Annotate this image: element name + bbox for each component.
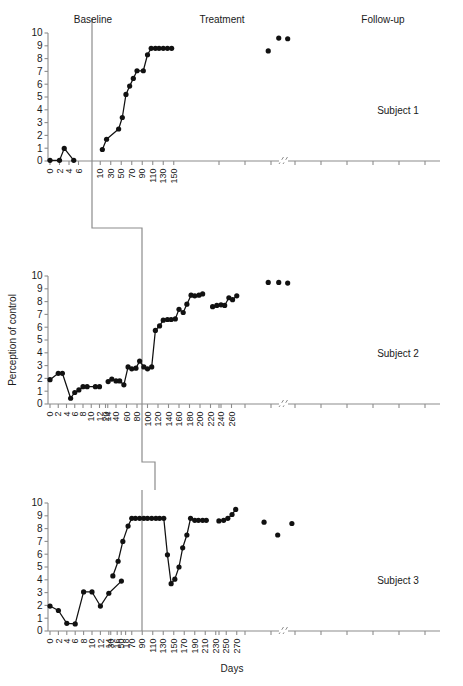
data-point — [181, 310, 186, 315]
data-point — [149, 364, 154, 369]
data-point — [120, 115, 125, 120]
x-tick-label: 180 — [185, 412, 195, 427]
y-tick-label: 4 — [37, 104, 43, 115]
data-point — [141, 68, 146, 73]
data-point — [117, 378, 122, 383]
x-axis-title: Days — [221, 663, 244, 674]
data-point — [47, 158, 52, 163]
y-tick-label: 3 — [37, 587, 43, 598]
data-point — [125, 523, 130, 528]
data-point — [230, 297, 235, 302]
x-tick-label: 210 — [200, 639, 210, 654]
data-point — [97, 384, 102, 389]
data-point — [133, 366, 138, 371]
x-tick-label: 6 — [74, 169, 84, 174]
y-tick-label: 5 — [37, 334, 43, 345]
data-point — [121, 382, 126, 387]
data-point — [98, 603, 103, 608]
x-tick-label: 130 — [158, 169, 168, 184]
x-tick-label: 170 — [179, 639, 189, 654]
x-tick-label: 70 — [127, 639, 137, 649]
data-point — [176, 564, 181, 569]
phase-headings: BaselineTreatmentFollow-up — [74, 14, 405, 25]
phase-label-baseline: Baseline — [74, 14, 113, 25]
y-tick-label: 2 — [37, 130, 43, 141]
data-point — [200, 291, 205, 296]
data-point — [57, 158, 62, 163]
y-tick-label: 1 — [37, 143, 43, 154]
y-tick-label: 3 — [37, 360, 43, 371]
data-point — [161, 516, 166, 521]
panel-subject-1: 01234567891002461030507090110130150Subje… — [31, 18, 440, 184]
y-tick-label: 8 — [37, 523, 43, 534]
y-tick-label: 4 — [37, 574, 43, 585]
data-point — [172, 577, 177, 582]
data-point — [73, 621, 78, 626]
y-tick-label: 7 — [37, 66, 43, 77]
y-tick-label: 10 — [31, 270, 43, 281]
data-point — [60, 371, 65, 376]
data-point — [153, 328, 158, 333]
x-tick-label: 90 — [137, 639, 147, 649]
data-point — [85, 384, 90, 389]
panel-subject-3: 0123456789100246810121416183050709011013… — [31, 490, 440, 654]
y-tick-label: 5 — [37, 561, 43, 572]
data-point — [276, 36, 281, 41]
data-point — [106, 591, 111, 596]
subject-label: Subject 1 — [377, 105, 419, 116]
data-point — [47, 603, 52, 608]
data-point — [222, 303, 227, 308]
data-point — [76, 387, 81, 392]
data-point — [184, 302, 189, 307]
subject-label: Subject 3 — [377, 575, 419, 586]
y-tick-label: 2 — [37, 373, 43, 384]
x-tick-label: 100 — [143, 412, 153, 427]
data-point — [68, 396, 73, 401]
x-tick-label: 130 — [158, 639, 168, 654]
data-line-treatment — [102, 48, 171, 149]
phase-label-treatment: Treatment — [199, 14, 244, 25]
x-tick-label: 150 — [169, 639, 179, 654]
data-point — [285, 36, 290, 41]
x-tick-label: 140 — [164, 412, 174, 427]
x-tick-label: 110 — [148, 169, 158, 183]
x-tick-label: 30 — [106, 639, 116, 649]
y-axis-title: Perception of control — [7, 294, 18, 386]
y-tick-label: 10 — [31, 497, 43, 508]
data-point — [100, 147, 105, 152]
data-point — [120, 539, 125, 544]
x-tick-label: 60 — [122, 412, 132, 422]
y-tick-label: 2 — [37, 600, 43, 611]
data-point — [62, 146, 67, 151]
data-point — [165, 552, 170, 557]
y-tick-label: 1 — [37, 386, 43, 397]
x-tick-label: 110 — [148, 639, 158, 653]
y-tick-label: 5 — [37, 91, 43, 102]
y-tick-label: 6 — [37, 549, 43, 560]
data-point — [157, 323, 162, 328]
data-point — [134, 68, 139, 73]
data-point — [225, 516, 230, 521]
x-tick-label: 250 — [221, 639, 231, 654]
x-tick-label: 220 — [206, 412, 216, 427]
data-point — [145, 52, 150, 57]
x-tick-label: 80 — [132, 412, 142, 422]
y-tick-label: 8 — [37, 53, 43, 64]
data-line-treatment — [108, 294, 203, 385]
x-tick-label: 240 — [216, 412, 226, 427]
data-point — [89, 589, 94, 594]
data-point — [176, 307, 181, 312]
data-point — [289, 521, 294, 526]
data-point — [266, 280, 271, 285]
y-tick-label: 9 — [37, 510, 43, 521]
data-point — [81, 589, 86, 594]
data-point — [110, 573, 115, 578]
data-point — [261, 520, 266, 525]
data-point — [275, 532, 280, 537]
x-tick-label: 200 — [195, 412, 205, 427]
data-point — [131, 76, 136, 81]
data-point — [116, 126, 121, 131]
y-tick-label: 0 — [37, 398, 43, 409]
y-tick-label: 7 — [37, 536, 43, 547]
x-tick-label: 30 — [106, 169, 116, 179]
